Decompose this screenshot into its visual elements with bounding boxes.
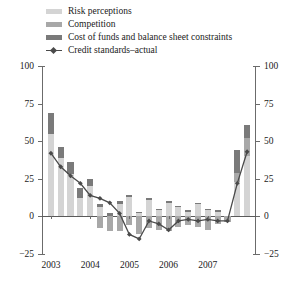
y-axis-left-tick-label: −25 bbox=[8, 249, 34, 259]
legend-label-risk-perceptions: Risk perceptions bbox=[68, 6, 132, 17]
y-axis-right-tick-label: 25 bbox=[264, 174, 290, 184]
x-axis-tick bbox=[129, 216, 130, 219]
y-axis-right-tick-label: −25 bbox=[264, 249, 290, 259]
line-marker bbox=[186, 217, 191, 222]
line-marker bbox=[196, 219, 201, 224]
axis-cap bbox=[40, 66, 45, 67]
line-marker bbox=[225, 219, 230, 224]
x-axis-tick bbox=[51, 216, 52, 219]
legend-item-credit-standards-actual: Credit standards–actual bbox=[46, 45, 292, 56]
x-axis-tick-label: 2004 bbox=[70, 260, 110, 270]
credit-standards-line bbox=[42, 66, 256, 254]
x-axis-tick-label: 2006 bbox=[149, 260, 189, 270]
line-marker bbox=[137, 237, 142, 242]
x-axis-tick bbox=[90, 216, 91, 219]
line-marker bbox=[215, 219, 220, 224]
plot-area bbox=[42, 66, 256, 254]
legend-item-risk-perceptions: Risk perceptions bbox=[46, 6, 292, 17]
legend-item-cost-of-funds: Cost of funds and balance sheet constrai… bbox=[46, 32, 292, 43]
legend-swatch-cost-of-funds bbox=[46, 35, 62, 40]
axis-tick bbox=[256, 179, 260, 180]
legend-swatch-competition bbox=[46, 22, 62, 27]
x-axis-tick bbox=[169, 216, 170, 219]
y-axis-left-tick-label: 50 bbox=[8, 136, 34, 146]
chart-root: Risk perceptions Competition Cost of fun… bbox=[0, 0, 298, 299]
y-axis-right-tick-label: 50 bbox=[264, 136, 290, 146]
y-axis-right-tick-label: 100 bbox=[264, 61, 290, 71]
y-axis-left-tick-label: 75 bbox=[8, 99, 34, 109]
line-marker bbox=[235, 181, 240, 186]
axis-tick bbox=[38, 216, 42, 217]
x-axis-tick-label: 2003 bbox=[31, 260, 71, 270]
x-axis-tick-label: 2007 bbox=[188, 260, 228, 270]
y-axis-left-tick-label: 100 bbox=[8, 61, 34, 71]
legend-label-credit-standards-actual: Credit standards–actual bbox=[68, 45, 157, 56]
line-marker bbox=[147, 219, 152, 224]
legend-label-cost-of-funds: Cost of funds and balance sheet constrai… bbox=[68, 32, 232, 43]
x-axis-tick-label: 2005 bbox=[109, 260, 149, 270]
x-axis-tick bbox=[208, 216, 209, 219]
line-path bbox=[51, 152, 247, 239]
line-marker bbox=[127, 232, 132, 237]
axis-tick bbox=[38, 179, 42, 180]
legend-item-competition: Competition bbox=[46, 19, 292, 30]
legend-swatch-risk-perceptions bbox=[46, 9, 62, 14]
y-axis-right-tick-label: 75 bbox=[264, 99, 290, 109]
axis-cap bbox=[253, 254, 258, 255]
axis-tick bbox=[256, 141, 260, 142]
axis-tick bbox=[38, 104, 42, 105]
y-axis-left-tick-label: 25 bbox=[8, 174, 34, 184]
axis-cap bbox=[253, 66, 258, 67]
y-axis-left-tick-label: 0 bbox=[8, 211, 34, 221]
legend-line-marker-icon bbox=[46, 47, 62, 54]
y-axis-right-tick-label: 0 bbox=[264, 211, 290, 221]
line-marker bbox=[98, 196, 103, 201]
axis-tick bbox=[256, 216, 260, 217]
axis-cap bbox=[40, 254, 45, 255]
legend-label-competition: Competition bbox=[68, 19, 116, 30]
axis-tick bbox=[256, 104, 260, 105]
chart-legend: Risk perceptions Competition Cost of fun… bbox=[46, 6, 292, 58]
line-marker bbox=[245, 149, 250, 154]
axis-tick bbox=[38, 141, 42, 142]
